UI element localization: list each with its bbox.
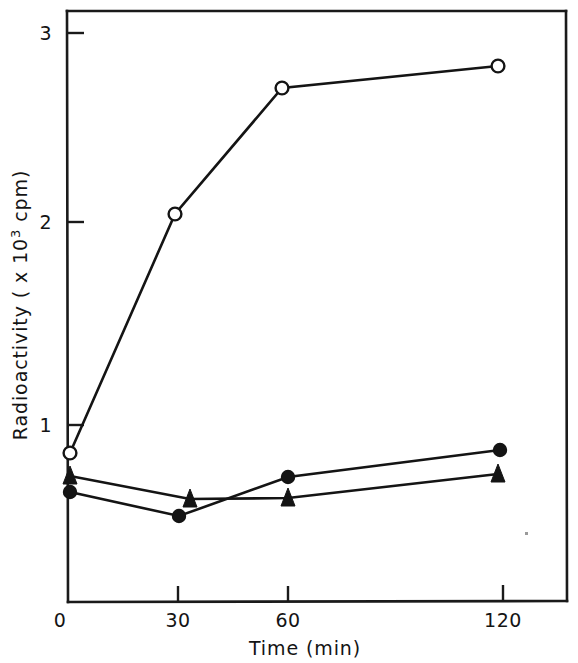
data-point-open-circle-t120 [492,60,505,73]
y-axis-title-exponent: 3 [8,229,23,238]
data-point-open-circle-t30 [169,208,182,221]
x-tick-label-120: 120 [484,609,522,631]
frame-right-edge [566,11,567,601]
figure-background [0,0,578,663]
data-point-filled-circle-t120 [493,443,506,456]
x-tick-label-0: 0 [54,609,67,631]
x-tick-label-60: 60 [275,609,300,631]
data-point-filled-circle-t0 [63,485,76,498]
data-point-open-circle-t0 [64,447,77,460]
scan-artifact-speck [525,532,528,535]
data-point-filled-circle-t30 [172,509,185,522]
data-point-open-circle-t60 [276,82,289,95]
y-tick-label-2: 2 [39,211,52,233]
frame-left-axis [67,11,68,602]
data-point-filled-circle-t60 [281,470,294,483]
y-tick-label-3: 3 [39,22,52,44]
frame-bottom-axis [68,601,567,602]
y-axis-title: Radioactivity ( x 103 cpm) [8,170,31,441]
x-tick-label-30: 30 [165,609,190,631]
y-tick-label-1: 1 [39,414,52,436]
x-axis-title: Time (min) [248,637,361,659]
chart-figure: 3 2 1 0 30 60 120 Time (min) Radioactivi… [0,0,578,663]
y-axis-title-suffix: cpm) [9,170,31,229]
y-axis-title-prefix: Radioactivity ( x 10 [9,238,31,440]
